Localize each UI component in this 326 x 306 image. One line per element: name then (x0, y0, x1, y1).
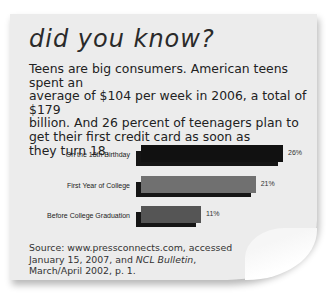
body-line: billion. And 26 percent of teenagers pla… (29, 116, 319, 130)
bar-value-label: 26% (288, 149, 302, 156)
source-citation: Source: www.pressconnects.com, accessed … (29, 242, 249, 277)
body-text: Teens are big consumers. American teens … (29, 62, 319, 157)
body-line: Teens are big consumers. American teens … (29, 62, 319, 89)
bar (141, 145, 283, 162)
bar (141, 206, 201, 223)
bar-value-label: 21% (261, 180, 275, 187)
source-publication: NCL Bulletin (136, 254, 193, 265)
bar-category-label: On the 18th Birthday (2, 151, 130, 158)
body-line: get their first credit card as soon as (29, 130, 319, 144)
page-curl-decoration (245, 228, 317, 280)
bar-value-label: 11% (206, 210, 220, 217)
body-line: average of $104 per week in 2006, a tota… (29, 89, 319, 116)
bar-category-label: First Year of College (2, 182, 130, 189)
bar (141, 176, 256, 193)
bar-category-label: Before College Graduation (2, 212, 130, 219)
card-title: did you know? (29, 25, 215, 53)
